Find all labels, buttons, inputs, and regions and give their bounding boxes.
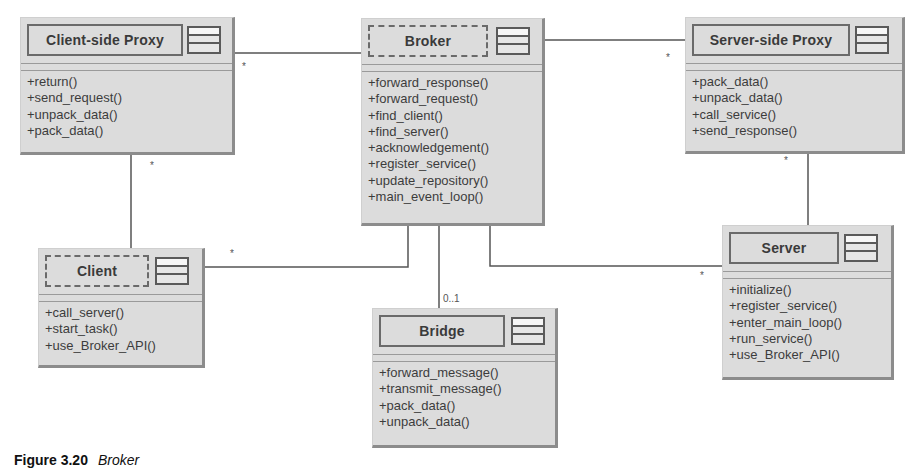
operation: +main_event_loop() [368, 189, 489, 205]
attribute-compartment [723, 271, 891, 279]
operation: +enter_main_loop() [729, 315, 842, 331]
operation: +use_Broker_API() [45, 338, 156, 354]
class-name: Client [45, 255, 149, 287]
operation: +unpack_data() [27, 107, 122, 123]
class-name: Bridge [379, 315, 505, 347]
assoc-broker-server [490, 224, 723, 266]
operation: +call_server() [45, 305, 156, 321]
operation: +start_task() [45, 321, 156, 337]
compartments-icon [187, 26, 221, 54]
attribute-compartment [39, 294, 202, 302]
operation: +initialize() [729, 282, 842, 298]
assoc-broker-client [204, 224, 408, 267]
multiplicity-ssp-server: * [784, 155, 788, 166]
compartments-icon [496, 27, 530, 55]
operations-list: +call_server() +start_task() +use_Broker… [45, 305, 156, 354]
operation: +find_server() [368, 124, 489, 140]
operations-list: +initialize() +register_service() +enter… [729, 282, 842, 363]
class-client-side-proxy[interactable]: Client-side Proxy +return() +send_reques… [20, 17, 235, 155]
operation: +send_response() [692, 123, 797, 139]
operations-list: +forward_response() +forward_request() +… [368, 75, 489, 205]
operations-list: +return() +send_request() +unpack_data()… [27, 74, 122, 139]
class-header: Bridge [373, 309, 555, 356]
operation: +send_request() [27, 90, 122, 106]
class-name: Server-side Proxy [692, 24, 850, 56]
operation: +acknowledgement() [368, 140, 489, 156]
operation: +return() [27, 74, 122, 90]
class-header: Server-side Proxy [686, 18, 902, 65]
operation: +update_repository() [368, 173, 489, 189]
operation: +forward_message() [379, 365, 501, 381]
multiplicity-csp-client: * [150, 160, 154, 171]
class-client[interactable]: Client +call_server() +start_task() +use… [38, 248, 205, 368]
figure-number: Figure 3.20 [14, 452, 88, 468]
class-broker[interactable]: Broker +forward_response() +forward_requ… [361, 18, 545, 226]
class-header: Broker [362, 19, 542, 66]
operation: +unpack_data() [379, 414, 501, 430]
attribute-compartment [686, 63, 902, 71]
class-server-side-proxy[interactable]: Server-side Proxy +pack_data() +unpack_d… [685, 17, 905, 154]
multiplicity-broker-client: * [230, 248, 234, 259]
operation: +run_service() [729, 331, 842, 347]
attribute-compartment [362, 64, 542, 72]
class-header: Client [39, 249, 202, 296]
operation: +register_service() [368, 156, 489, 172]
operations-list: +pack_data() +unpack_data() +call_servic… [692, 74, 797, 139]
class-header: Server [723, 226, 891, 273]
figure-caption: Figure 3.20Broker [14, 452, 139, 468]
operation: +pack_data() [27, 123, 122, 139]
operation: +transmit_message() [379, 381, 501, 397]
operation: +unpack_data() [692, 90, 797, 106]
operation: +find_client() [368, 108, 489, 124]
multiplicity-broker-ssp: * [666, 52, 670, 63]
compartments-icon [844, 234, 878, 262]
operation: +register_service() [729, 298, 842, 314]
operation: +use_Broker_API() [729, 347, 842, 363]
attribute-compartment [373, 354, 555, 362]
operation: +pack_data() [379, 398, 501, 414]
multiplicity-csp-broker: * [242, 61, 246, 72]
class-header: Client-side Proxy [21, 18, 232, 65]
figure-title: Broker [98, 452, 139, 468]
compartments-icon [155, 257, 189, 285]
operations-list: +forward_message() +transmit_message() +… [379, 365, 501, 430]
multiplicity-broker-bridge: 0..1 [443, 293, 460, 304]
attribute-compartment [21, 63, 232, 71]
compartments-icon [855, 26, 889, 54]
class-name: Broker [368, 25, 488, 57]
class-bridge[interactable]: Bridge +forward_message() +transmit_mess… [372, 308, 558, 448]
compartments-icon [511, 317, 545, 345]
class-name: Server [729, 232, 839, 264]
class-server[interactable]: Server +initialize() +register_service()… [722, 225, 894, 380]
operation: +forward_request() [368, 91, 489, 107]
multiplicity-broker-server: * [700, 270, 704, 281]
operation: +call_service() [692, 107, 797, 123]
operation: +forward_response() [368, 75, 489, 91]
operation: +pack_data() [692, 74, 797, 90]
class-name: Client-side Proxy [27, 24, 183, 56]
